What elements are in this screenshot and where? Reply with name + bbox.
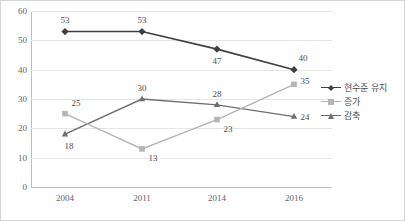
axis-baseline bbox=[31, 187, 332, 188]
line-chart: 53 53 47 40 25 13 23 35 18 30 28 24 60 5… bbox=[0, 0, 405, 221]
x-axis-tick-labels: 2004 2011 2014 2016 bbox=[31, 193, 332, 207]
marker-hyeonsujun-2014 bbox=[213, 46, 220, 53]
data-label-hyeonsujun-2004: 53 bbox=[61, 16, 70, 25]
y-tick-10: 10 bbox=[3, 153, 27, 162]
legend-label-hyeonsujun: 현수준 유지 bbox=[344, 83, 387, 94]
x-tick-2014: 2014 bbox=[192, 193, 242, 204]
legend-item-jeungga[interactable]: 증가 bbox=[321, 95, 405, 109]
plot-area: 53 53 47 40 25 13 23 35 18 30 28 24 bbox=[31, 11, 332, 187]
y-tick-50: 50 bbox=[3, 36, 27, 45]
data-label-jeungga-2011: 13 bbox=[149, 154, 158, 163]
data-label-hyeonsujun-2011: 53 bbox=[138, 16, 147, 25]
legend-item-gamchuk[interactable]: 감축 bbox=[321, 109, 405, 123]
marker-jeungga-2004 bbox=[62, 111, 68, 117]
data-label-jeungga-2016: 35 bbox=[301, 77, 310, 86]
chart-legend: 현수준 유지 증가 감축 bbox=[321, 81, 405, 123]
marker-jeungga-2011 bbox=[139, 146, 145, 152]
data-label-hyeonsujun-2016: 40 bbox=[299, 54, 308, 63]
x-tick-2016: 2016 bbox=[269, 193, 319, 204]
triangle-icon bbox=[328, 113, 334, 119]
marker-hyeonsujun-2011 bbox=[138, 28, 145, 35]
legend-marker-diamond-icon bbox=[321, 82, 341, 94]
marker-hyeonsujun-2004 bbox=[61, 28, 68, 35]
square-icon bbox=[328, 99, 334, 105]
y-tick-20: 20 bbox=[3, 124, 27, 133]
marker-jeungga-2016 bbox=[291, 82, 297, 88]
data-label-gamchuk-2016: 24 bbox=[301, 113, 310, 122]
legend-marker-square-icon bbox=[321, 96, 341, 108]
x-tick-2004: 2004 bbox=[40, 193, 90, 204]
data-label-gamchuk-2014: 28 bbox=[213, 90, 222, 99]
legend-label-jeungga: 증가 bbox=[344, 97, 360, 108]
legend-item-hyeonsujun[interactable]: 현수준 유지 bbox=[321, 81, 405, 95]
data-label-gamchuk-2011: 30 bbox=[138, 84, 147, 93]
y-axis-tick-labels: 60 50 40 30 20 10 0 bbox=[1, 11, 27, 187]
marker-gamchuk-2011 bbox=[139, 95, 145, 101]
data-label-jeungga-2014: 23 bbox=[224, 125, 233, 134]
data-label-gamchuk-2004: 18 bbox=[65, 142, 74, 151]
y-tick-30: 30 bbox=[3, 95, 27, 104]
x-tick-2011: 2011 bbox=[117, 193, 167, 204]
diamond-icon bbox=[328, 85, 334, 91]
legend-label-gamchuk: 감축 bbox=[344, 111, 360, 122]
marker-jeungga-2014 bbox=[214, 117, 220, 123]
series-line-hyeonsujun bbox=[65, 32, 294, 70]
y-tick-0: 0 bbox=[3, 183, 27, 192]
series-line-jeungga bbox=[65, 84, 294, 149]
data-label-hyeonsujun-2014: 47 bbox=[213, 57, 222, 66]
legend-marker-triangle-icon bbox=[321, 110, 341, 122]
y-tick-60: 60 bbox=[3, 7, 27, 16]
data-label-jeungga-2004: 25 bbox=[72, 99, 81, 108]
y-tick-40: 40 bbox=[3, 65, 27, 74]
marker-hyeonsujun-2016 bbox=[290, 66, 297, 73]
